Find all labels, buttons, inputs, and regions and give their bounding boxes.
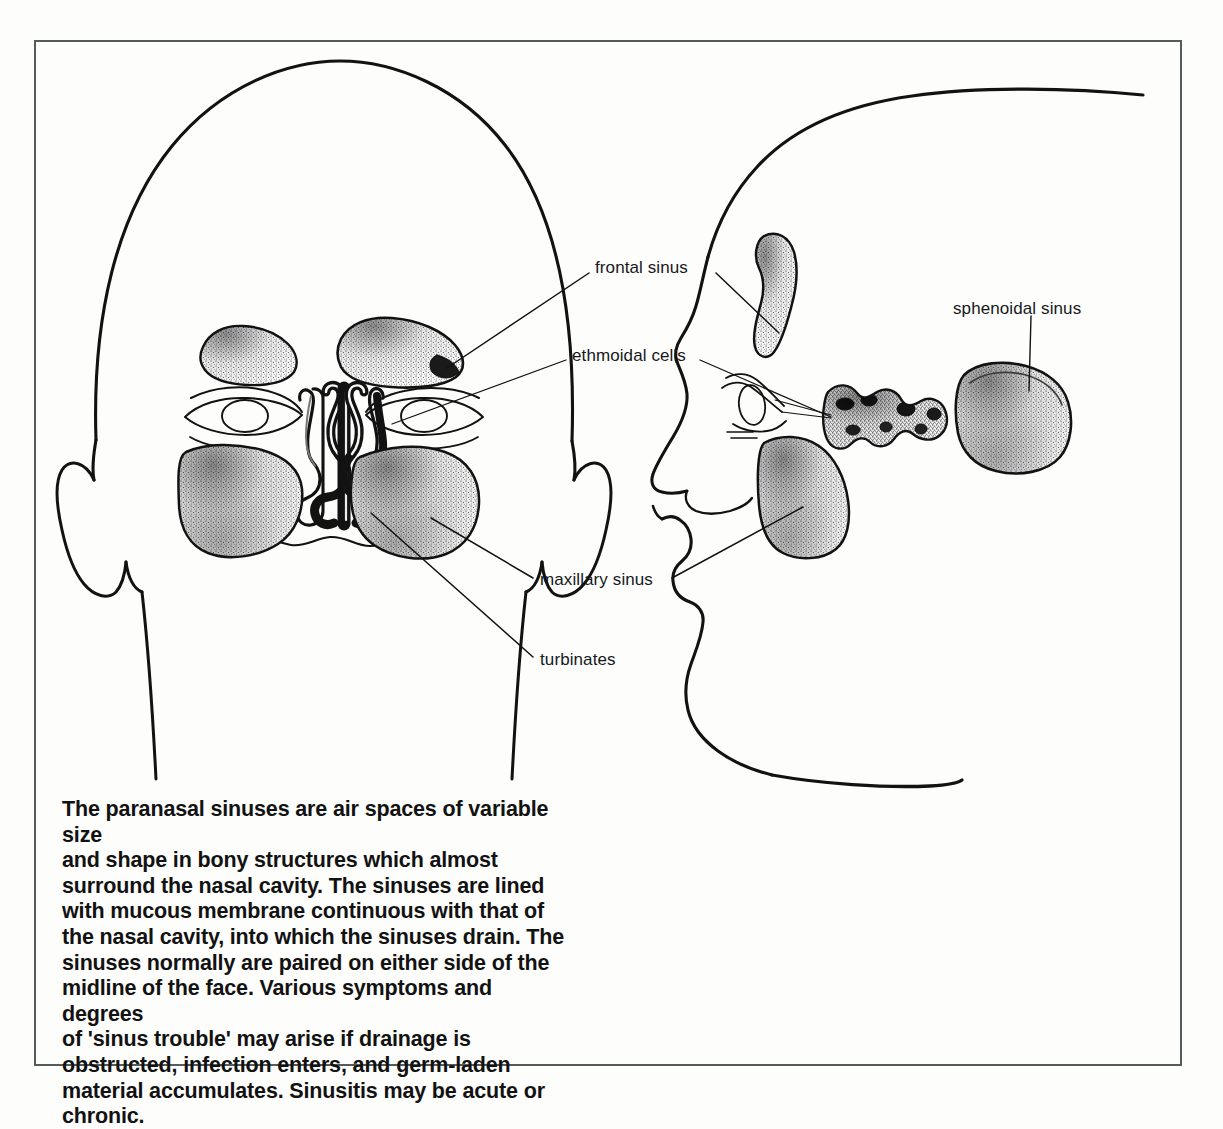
maxillary-sinus-pair (170, 435, 492, 570)
maxillary-sinus-left (170, 435, 315, 570)
maxillary-sinus-right (342, 438, 492, 570)
label-frontal-sinus: frontal sinus (595, 258, 688, 278)
label-turbinates: turbinates (540, 650, 616, 670)
profile-ethmoidal-cells (818, 380, 958, 458)
figure-caption: The paranasal sinuses are air spaces of … (62, 797, 572, 1129)
label-sphenoidal-sinus: sphenoidal sinus (953, 299, 1081, 319)
profile-frontal-sinus (748, 225, 804, 365)
figure-page: frontal sinus ethmoidal cells sphenoidal… (0, 0, 1223, 1129)
profile-sphenoidal-sinus (948, 352, 1084, 484)
eye-left (185, 387, 302, 448)
label-ethmoidal-cells: ethmoidal cells (572, 346, 686, 366)
label-maxillary-sinus: maxillary sinus (540, 570, 653, 590)
leader-lines (371, 273, 1031, 657)
